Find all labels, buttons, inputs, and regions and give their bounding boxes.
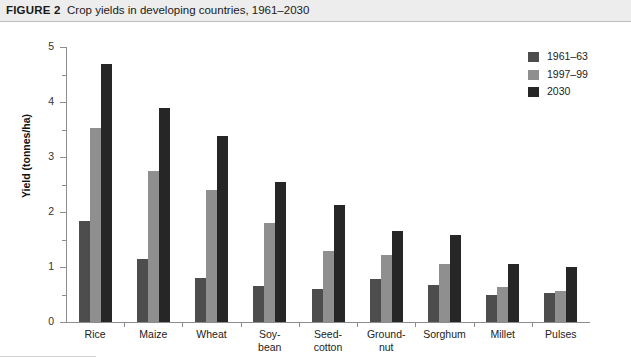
- legend-swatch-1997-99: [528, 70, 539, 80]
- x-axis-label: Maize: [124, 328, 182, 341]
- bar: [555, 291, 566, 322]
- x-axis-separator: [415, 322, 416, 327]
- bar: [217, 136, 228, 322]
- y-tick-label: 4: [36, 96, 54, 107]
- x-axis-label: Ground- nut: [357, 328, 415, 353]
- bar-group: [312, 47, 345, 322]
- x-axis-separator: [241, 322, 242, 327]
- figure-container: FIGURE 2 Crop yields in developing count…: [0, 0, 631, 364]
- bar-group: [486, 47, 519, 322]
- y-tick-minor: [62, 240, 66, 241]
- y-tick-minor: [62, 295, 66, 296]
- bar: [392, 231, 403, 322]
- y-axis-title: Yield (tonnes/ha): [20, 86, 32, 226]
- bar: [137, 259, 148, 322]
- y-tick-major: [60, 102, 66, 103]
- x-axis-separator: [474, 322, 475, 327]
- legend-label-1997-99: 1997–99: [547, 68, 588, 80]
- bar-group: [428, 47, 461, 322]
- bar: [323, 251, 334, 323]
- x-axis-line: [66, 322, 590, 323]
- bar: [544, 293, 555, 322]
- bar: [159, 108, 170, 323]
- y-tick-label: 0: [36, 316, 54, 327]
- bar: [79, 221, 90, 322]
- x-axis-label: Rice: [66, 328, 124, 341]
- bar: [101, 64, 112, 323]
- bar: [450, 235, 461, 322]
- bar-group: [370, 47, 403, 322]
- bar: [206, 190, 217, 322]
- footer-divider: [0, 356, 96, 357]
- bar: [370, 279, 381, 322]
- y-tick-major: [60, 47, 66, 48]
- bar: [381, 255, 392, 322]
- y-axis-line: [66, 47, 67, 323]
- x-axis-separator: [299, 322, 300, 327]
- y-tick-label: 1: [36, 261, 54, 272]
- y-tick-major: [60, 322, 66, 323]
- x-axis-label: Pulses: [532, 328, 590, 341]
- x-axis-separator: [182, 322, 183, 327]
- bar: [90, 128, 101, 322]
- bar: [264, 223, 275, 322]
- bar: [334, 205, 345, 322]
- x-axis-separator: [532, 322, 533, 327]
- bar-group: [137, 47, 170, 322]
- x-axis-label: Wheat: [182, 328, 240, 341]
- y-tick-minor: [62, 185, 66, 186]
- y-tick-major: [60, 267, 66, 268]
- bar: [439, 264, 450, 322]
- legend-swatch-1961-63: [528, 52, 539, 62]
- legend-label-2030: 2030: [547, 85, 570, 97]
- bar: [148, 171, 159, 322]
- x-axis-label: Millet: [474, 328, 532, 341]
- x-axis-separator: [357, 322, 358, 327]
- x-axis-label: Sorghum: [415, 328, 473, 341]
- legend-label-1961-63: 1961–63: [547, 50, 588, 62]
- bar: [428, 285, 439, 322]
- bar: [508, 264, 519, 322]
- x-axis-separator: [124, 322, 125, 327]
- bar-group: [79, 47, 112, 322]
- x-axis-label: Soy- bean: [241, 328, 299, 353]
- bar: [312, 289, 323, 322]
- legend-swatch-2030: [528, 87, 539, 97]
- y-tick-label: 3: [36, 151, 54, 162]
- y-tick-label: 2: [36, 206, 54, 217]
- y-tick-label: 5: [36, 41, 54, 52]
- y-tick-minor: [62, 75, 66, 76]
- bar-group: [195, 47, 228, 322]
- bar-group: [253, 47, 286, 322]
- bar: [486, 295, 497, 323]
- y-tick-major: [60, 212, 66, 213]
- bar: [253, 286, 264, 322]
- bar: [566, 267, 577, 322]
- y-tick-minor: [62, 130, 66, 131]
- y-tick-major: [60, 157, 66, 158]
- x-axis-label: Seed- cotton: [299, 328, 357, 353]
- bar: [275, 182, 286, 322]
- bar: [195, 278, 206, 322]
- bar: [497, 287, 508, 322]
